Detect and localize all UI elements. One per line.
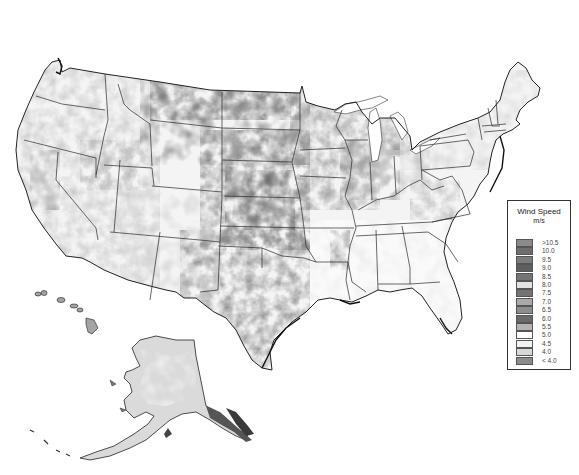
legend-title: Wind Speed [508, 207, 570, 216]
legend-item: 6.0 [516, 315, 568, 323]
legend-item: 9.0 [516, 264, 568, 272]
legend-label: 6.5 [542, 306, 551, 314]
legend-label: 4.0 [542, 348, 551, 356]
legend-item: 5.0 [516, 331, 568, 339]
legend-label: 6.0 [542, 315, 551, 323]
legend-swatch [516, 256, 533, 264]
legend-label: 9.0 [542, 264, 551, 272]
legend-item: 8.5 [516, 273, 568, 281]
legend-item: < 4.0 [516, 357, 568, 365]
legend-swatch [516, 315, 533, 323]
legend-item: 8.0 [516, 281, 568, 289]
legend-swatch [516, 273, 533, 281]
legend-item: 4.0 [516, 348, 568, 356]
legend-item: 7.5 [516, 289, 568, 297]
legend-item: 5.5 [516, 323, 568, 331]
legend-item: 4.5 [516, 340, 568, 348]
wind-speed-map [0, 0, 579, 475]
legend-swatch [516, 239, 533, 247]
legend-label: 8.0 [542, 281, 551, 289]
legend-swatch [516, 247, 533, 255]
legend-unit: m/s [508, 217, 570, 224]
legend-swatch [516, 264, 533, 272]
legend-label: 9.5 [542, 256, 551, 264]
legend-item: 6.5 [516, 306, 568, 314]
legend-item: >10.5 [516, 239, 568, 247]
legend-label: 8.5 [542, 273, 551, 281]
legend-swatch [516, 289, 533, 297]
legend-swatch [516, 281, 533, 289]
legend-swatch [516, 306, 533, 314]
legend-label: 7.5 [542, 289, 551, 297]
legend-label: 10.0 [542, 247, 555, 255]
legend-label: >10.5 [542, 239, 558, 247]
legend-label: < 4.0 [542, 357, 557, 365]
legend-item: 10.0 [516, 247, 568, 255]
legend-swatch [516, 348, 533, 356]
legend-swatch [516, 298, 533, 306]
legend-label: 5.0 [542, 331, 551, 339]
legend-swatch [516, 331, 533, 339]
legend-swatch [516, 323, 533, 331]
legend-item: 7.0 [516, 298, 568, 306]
legend-swatch [516, 340, 533, 348]
legend-swatch [516, 357, 533, 365]
alaska [30, 336, 254, 460]
legend: Wind Speed m/s >10.510.09.59.08.58.07.57… [507, 200, 571, 370]
legend-item: 9.5 [516, 256, 568, 264]
legend-label: 4.5 [542, 340, 551, 348]
hawaii [35, 291, 98, 335]
legend-label: 7.0 [542, 298, 551, 306]
contiguous-us [0, 50, 540, 370]
legend-label: 5.5 [542, 323, 551, 331]
